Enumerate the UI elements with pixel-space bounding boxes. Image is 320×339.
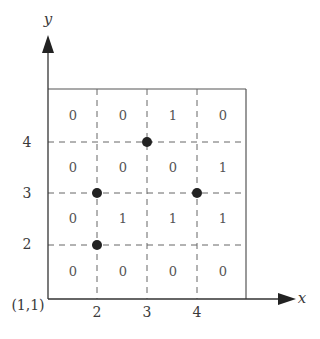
x-tick-3: 3 [143,304,152,320]
y-tick-2: 2 [23,236,32,252]
y-axis-arrow-icon [42,35,54,53]
x-axis-arrow-icon [278,293,296,305]
cell-value: 0 [119,108,127,123]
cell-value: 0 [119,160,127,175]
y-tick-4: 4 [23,134,32,150]
y-axis-label: y [43,10,53,28]
cell-value: 1 [169,211,177,226]
cell-value: 0 [69,108,77,123]
x-tick-4: 4 [193,304,202,320]
cell-value: 0 [69,160,77,175]
cell-value: 1 [119,211,127,226]
lattice-diagram: y x (1,1) 2 3 4 2 3 4 0 0 1 0 0 0 0 1 0 … [0,0,320,339]
point-4-3 [192,188,202,198]
point-2-3 [92,188,102,198]
y-tick-3: 3 [23,185,32,201]
origin-label: (1,1) [11,297,44,313]
point-2-2 [92,240,102,250]
cell-value: 1 [169,108,177,123]
cell-value: 0 [119,264,127,279]
cell-value: 0 [69,211,77,226]
cell-value: 0 [169,264,177,279]
x-axis-label: x [298,289,307,307]
dashed-grid [48,89,246,299]
cell-value: 0 [219,108,227,123]
point-3-4 [142,137,152,147]
cell-value: 0 [169,160,177,175]
cell-value: 1 [219,160,227,175]
x-tick-2: 2 [93,304,102,320]
cell-value: 1 [219,211,227,226]
cell-value: 0 [69,264,77,279]
cell-value: 0 [219,264,227,279]
